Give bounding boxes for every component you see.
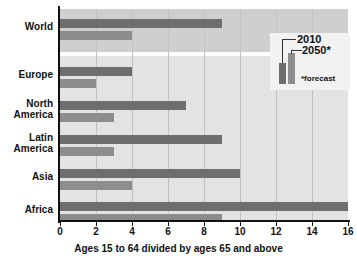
legend-leader-line-2010-vertical: [282, 39, 283, 63]
bar-europe-2010: [60, 67, 132, 76]
bar-africa-2010: [60, 202, 348, 211]
category-label-north-america: North America: [0, 98, 53, 120]
x-tick-label-0: 0: [57, 226, 63, 237]
legend-label-2050: 2050*: [302, 44, 331, 56]
legend-swatch-2010: [279, 63, 286, 84]
legend-forecast-note: *forecast: [301, 74, 335, 83]
gridline-6: [168, 9, 169, 220]
bar-chart: 2010 2050* *forecast 0 2 4 6 8 10 12 14 …: [0, 0, 357, 265]
x-tick-label-14: 14: [306, 226, 317, 237]
gridline-4: [132, 9, 133, 220]
bar-north-america-2010: [60, 101, 186, 110]
x-tick-label-12: 12: [270, 226, 281, 237]
category-label-europe: Europe: [0, 69, 53, 80]
bar-europe-2050: [60, 79, 96, 88]
x-tick-label-8: 8: [201, 226, 207, 237]
bar-world-2050: [60, 31, 132, 40]
legend-leader-line-2050-horizontal: [291, 50, 302, 51]
bar-world-2010: [60, 19, 222, 28]
gridline-8: [204, 9, 205, 220]
category-label-world: World: [0, 21, 53, 32]
x-tick-label-6: 6: [165, 226, 171, 237]
x-tick-label-16: 16: [342, 226, 353, 237]
category-label-africa: Africa: [0, 204, 53, 215]
category-label-asia: Asia: [0, 171, 53, 182]
legend: 2010 2050* *forecast: [270, 33, 350, 90]
x-axis-title: Ages 15 to 64 divided by ages 65 and abo…: [0, 243, 357, 254]
bar-asia-2010: [60, 169, 240, 178]
x-tick-label-4: 4: [129, 226, 135, 237]
legend-swatch-2050: [288, 53, 295, 84]
bar-latin-america-2010: [60, 135, 222, 144]
bar-asia-2050: [60, 181, 132, 190]
gridline-10: [240, 9, 241, 220]
legend-leader-line-2010-horizontal: [282, 39, 296, 40]
x-tick-label-2: 2: [93, 226, 99, 237]
y-axis-line: [58, 6, 60, 223]
bar-latin-america-2050: [60, 147, 114, 156]
bar-north-america-2050: [60, 113, 114, 122]
category-label-latin-america: Latin America: [0, 132, 53, 154]
x-tick-label-10: 10: [234, 226, 245, 237]
